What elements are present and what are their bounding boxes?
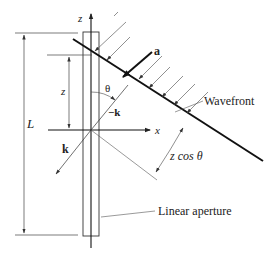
theta-label: θ bbox=[105, 82, 110, 94]
a-vector bbox=[123, 52, 152, 77]
k-label: k bbox=[62, 142, 69, 156]
aperture-diagram: z x L z θ −k k a Wavefront z cos θ Linea… bbox=[0, 0, 264, 260]
path-diff-label: z cos θ bbox=[169, 149, 203, 163]
aperture-label: Linear aperture bbox=[158, 204, 232, 218]
aperture-leader bbox=[101, 211, 155, 217]
neg-k-label: −k bbox=[108, 106, 121, 118]
z-axis-label: z bbox=[77, 12, 83, 24]
zcos-dimension-lower bbox=[156, 150, 170, 172]
perp-line bbox=[91, 130, 157, 180]
theta-arc bbox=[91, 92, 115, 100]
length-label: L bbox=[26, 116, 34, 131]
a-label: a bbox=[154, 44, 160, 58]
x-axis-label: x bbox=[154, 124, 160, 136]
z-height-label: z bbox=[60, 85, 66, 97]
zcos-dimension bbox=[170, 128, 183, 150]
wavefront-label: Wavefront bbox=[204, 94, 255, 108]
